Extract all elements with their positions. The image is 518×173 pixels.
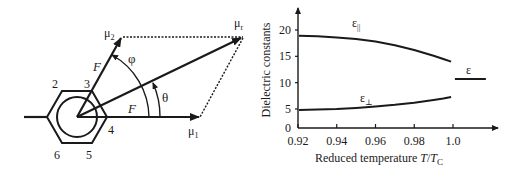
eps-perpendicular-label: ε⊥ — [360, 91, 373, 107]
x-tick-label: 0.96 — [365, 134, 386, 148]
eps-parallel-label: ε|| — [352, 16, 360, 32]
ring-position-3: 3 — [84, 77, 90, 91]
mur-label: μr — [234, 16, 243, 32]
mu1-label: μ1 — [188, 124, 198, 140]
field-label-mu1: F — [127, 101, 137, 116]
theta-angle-arc — [153, 83, 160, 117]
x-tick-label: 0.92 — [288, 134, 309, 148]
dielectric-chart: 20151050 0.920.940.960.981.0 ε||ε⊥ε Diel… — [259, 8, 498, 167]
field-label-mu2: F — [92, 59, 102, 74]
x-tick-label: 0.94 — [326, 134, 347, 148]
x-tick-label: 1.0 — [446, 134, 461, 148]
y-tick-label: 5 — [285, 102, 291, 116]
ring-position-4: 4 — [108, 123, 114, 137]
x-axis-label: Reduced temperature T/TC — [315, 151, 443, 167]
mu2-label: μ2 — [104, 26, 114, 42]
eps-isotropic-label: ε — [466, 63, 471, 77]
vector-diagram: 2 3 4 5 6 μ2 μr μ1 F F φ θ — [24, 16, 243, 162]
parallelogram-right-dotted — [200, 38, 243, 117]
eps-perpendicular-curve — [299, 97, 451, 110]
ring-position-2: 2 — [52, 77, 58, 91]
y-tick-label: 20 — [279, 23, 291, 37]
x-tick-label: 0.98 — [404, 134, 425, 148]
figure: 2 3 4 5 6 μ2 μr μ1 F F φ θ 20151050 0.92… — [0, 0, 518, 173]
y-tick-label: 0 — [285, 121, 291, 135]
eps-parallel-curve — [299, 36, 451, 62]
series-group: ε||ε⊥ε — [299, 16, 486, 110]
ring-position-6: 6 — [54, 148, 60, 162]
y-tick-label: 15 — [279, 49, 291, 63]
theta-label: θ — [162, 90, 168, 105]
y-tick-label: 10 — [279, 76, 291, 90]
phi-label: φ — [128, 51, 136, 66]
y-ticks: 20151050 — [279, 23, 298, 135]
y-axis-label: Dielectric constants — [259, 22, 273, 117]
ring-position-5: 5 — [86, 148, 92, 162]
